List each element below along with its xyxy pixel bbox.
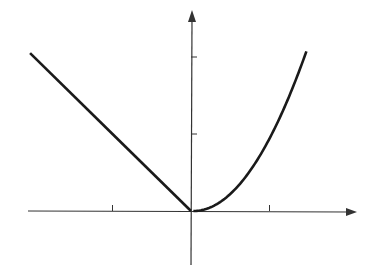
- curves: [30, 51, 306, 211]
- axes: [28, 10, 357, 265]
- parabola-branch: [193, 51, 306, 211]
- y-axis-arrow-icon: [188, 10, 196, 22]
- y-axis: [191, 18, 192, 265]
- x-axis: [28, 211, 350, 212]
- x-axis-arrow-icon: [346, 208, 357, 216]
- line-branch: [30, 53, 191, 211]
- function-plot: [0, 0, 375, 273]
